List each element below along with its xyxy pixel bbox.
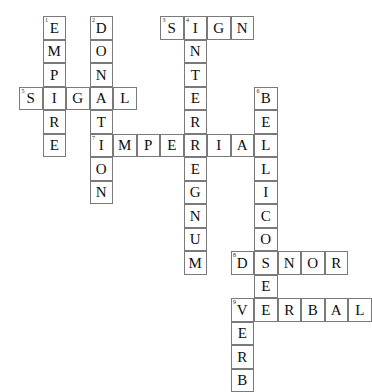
crossword-cell[interactable]: T <box>184 63 208 87</box>
crossword-cell[interactable]: N <box>184 40 208 64</box>
crossword-cell[interactable]: P <box>137 134 161 158</box>
cell-letter: A <box>91 91 113 106</box>
crossword-cell[interactable]: A <box>231 134 255 158</box>
crossword-cell[interactable]: R <box>43 110 67 134</box>
crossword-cell[interactable]: N <box>184 204 208 228</box>
cell-letter: O <box>91 44 113 59</box>
cell-letter: L <box>255 138 277 153</box>
crossword-cell[interactable]: B <box>301 298 325 322</box>
crossword-cell[interactable]: G <box>184 181 208 205</box>
cell-letter: M <box>114 138 136 153</box>
crossword-cell[interactable]: E <box>184 157 208 181</box>
crossword-cell[interactable]: E <box>254 275 278 299</box>
crossword-cell[interactable]: M <box>184 251 208 275</box>
crossword-cell[interactable]: L <box>113 87 137 111</box>
crossword-cell[interactable]: C <box>254 204 278 228</box>
crossword-cell[interactable]: 1E <box>43 16 67 40</box>
cell-letter: S <box>255 255 277 270</box>
crossword-cell[interactable]: M <box>113 134 137 158</box>
crossword-cell[interactable]: E <box>160 134 184 158</box>
cell-letter: D <box>232 255 254 270</box>
crossword-cell[interactable]: R <box>231 345 255 369</box>
cell-letter: G <box>208 20 230 35</box>
crossword-cell[interactable]: T <box>90 110 114 134</box>
crossword-cell[interactable]: 9V <box>231 298 255 322</box>
cell-letter: I <box>44 91 66 106</box>
crossword-cell[interactable]: I <box>207 134 231 158</box>
cell-letter: R <box>44 114 66 129</box>
crossword-cell[interactable]: S <box>254 251 278 275</box>
crossword-cell[interactable]: 4I <box>184 16 208 40</box>
cell-letter: E <box>255 114 277 129</box>
cell-letter: C <box>255 208 277 223</box>
cell-letter: L <box>255 161 277 176</box>
cell-letter: E <box>232 326 254 341</box>
crossword-cell[interactable]: P <box>43 63 67 87</box>
cell-letter: I <box>255 185 277 200</box>
cell-letter: I <box>185 20 207 35</box>
crossword-cell[interactable]: G <box>66 87 90 111</box>
cell-letter: N <box>279 255 301 270</box>
cell-letter: S <box>161 20 183 35</box>
cell-letter: N <box>185 208 207 223</box>
crossword-cell[interactable]: N <box>231 16 255 40</box>
crossword-cell[interactable]: I <box>254 181 278 205</box>
crossword-cell[interactable]: O <box>90 40 114 64</box>
crossword-cell[interactable]: 5S <box>19 87 43 111</box>
crossword-cell[interactable]: N <box>90 181 114 205</box>
crossword-cell[interactable]: U <box>184 228 208 252</box>
crossword-cell[interactable]: R <box>184 134 208 158</box>
cell-letter: E <box>44 138 66 153</box>
crossword-cell[interactable]: I <box>43 87 67 111</box>
cell-letter: E <box>44 20 66 35</box>
crossword-cell[interactable]: 7I <box>90 134 114 158</box>
cell-letter: M <box>185 255 207 270</box>
cell-letter: L <box>349 302 371 317</box>
crossword-cell[interactable]: N <box>278 251 302 275</box>
crossword-cell[interactable]: E <box>254 298 278 322</box>
cell-letter: T <box>91 114 113 129</box>
cell-letter: O <box>255 232 277 247</box>
cell-letter: N <box>185 44 207 59</box>
cell-letter: V <box>232 302 254 317</box>
crossword-cell[interactable]: G <box>207 16 231 40</box>
crossword-cell[interactable]: 2D <box>90 16 114 40</box>
crossword-cell[interactable]: O <box>301 251 325 275</box>
crossword-cell[interactable]: R <box>278 298 302 322</box>
cell-letter: A <box>326 302 348 317</box>
cell-letter: E <box>185 91 207 106</box>
crossword-cell[interactable]: A <box>90 87 114 111</box>
cell-letter: N <box>232 20 254 35</box>
crossword-cell[interactable]: 3S <box>160 16 184 40</box>
crossword-cell[interactable]: R <box>184 110 208 134</box>
crossword-cell[interactable]: O <box>254 228 278 252</box>
crossword-cell[interactable]: R <box>325 251 349 275</box>
crossword-cell[interactable]: N <box>90 63 114 87</box>
cell-letter: R <box>232 349 254 364</box>
crossword-cell[interactable]: 6B <box>254 87 278 111</box>
cell-letter: T <box>185 67 207 82</box>
crossword-cell[interactable]: E <box>43 134 67 158</box>
crossword-cell[interactable]: L <box>254 134 278 158</box>
crossword-cell[interactable]: L <box>254 157 278 181</box>
cell-letter: E <box>161 138 183 153</box>
cell-letter: L <box>114 91 136 106</box>
crossword-cell[interactable]: E <box>254 110 278 134</box>
crossword-cell[interactable]: B <box>231 369 255 392</box>
cell-letter: N <box>91 185 113 200</box>
cell-letter: E <box>185 161 207 176</box>
cell-letter: O <box>302 255 324 270</box>
crossword-cell[interactable]: L <box>348 298 372 322</box>
cell-letter: R <box>185 138 207 153</box>
crossword-cell[interactable]: E <box>184 87 208 111</box>
crossword-cell[interactable]: M <box>43 40 67 64</box>
cell-letter: B <box>232 373 254 388</box>
crossword-cell[interactable]: A <box>325 298 349 322</box>
crossword-cell[interactable]: E <box>231 322 255 346</box>
crossword-cell[interactable]: 8D <box>231 251 255 275</box>
cell-letter: R <box>326 255 348 270</box>
cell-letter: M <box>44 44 66 59</box>
crossword-cell[interactable]: O <box>90 157 114 181</box>
cell-letter: G <box>185 185 207 200</box>
